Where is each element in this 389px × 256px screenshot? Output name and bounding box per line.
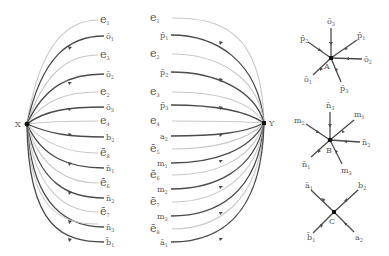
svg-text:n̄2: n̄2 [106,194,114,204]
vertex-x-label: X [15,120,21,129]
svg-text:e4: e4 [100,114,110,127]
svg-text:b̄1: b̄1 [105,237,114,248]
svg-text:n̄3: n̄3 [106,223,114,233]
svg-text:ā1: ā1 [305,181,313,191]
vertex-a-star: A ō3 p̄1 ō2 p̄3 ō1 p̄2 [300,17,372,94]
svg-text:e4: e4 [150,114,160,127]
svg-text:m3: m3 [341,166,352,176]
svg-text:m2: m2 [157,185,168,195]
svg-text:ē8: ē8 [150,222,160,235]
svg-text:ō2: ō2 [364,55,372,65]
svg-text:ē5: ē5 [150,142,160,155]
svg-text:m1: m1 [157,159,168,169]
svg-text:m2: m2 [294,116,305,126]
svg-text:p̄2: p̄2 [160,68,168,78]
vertex-y-label: Y [268,119,275,128]
svg-text:ō1: ō1 [304,75,312,85]
svg-text:a2: a2 [355,233,363,243]
svg-text:e3: e3 [100,48,110,61]
svg-text:m3: m3 [157,212,168,222]
svg-text:ō2: ō2 [106,70,114,80]
svg-text:b2: b2 [358,181,366,191]
svg-text:ō1: ō1 [106,32,114,42]
svg-text:e1: e1 [100,13,110,26]
svg-text:n̄2: n̄2 [362,138,370,148]
svg-text:C: C [329,217,335,226]
svg-text:p̄1: p̄1 [160,31,168,41]
left-edge-bundle [27,20,104,242]
vertex-c-star: C ā1 b2 a2 b̄1 [305,181,366,243]
svg-text:e3: e3 [150,85,160,98]
svg-text:p̄3: p̄3 [160,101,168,111]
svg-text:n̄1: n̄1 [302,160,310,170]
svg-text:A: A [323,62,330,71]
svg-text:n̄3: n̄3 [326,101,334,111]
svg-text:e2: e2 [150,47,160,60]
svg-text:p̄3: p̄3 [340,84,348,94]
svg-text:m1: m1 [354,110,365,120]
right-edge-labels: e1 p̄1 e2 p̄2 e3 p̄3 e4 a2 ē5 m1 ē6 m2 ē… [150,11,168,248]
svg-text:ē6: ē6 [150,168,160,181]
svg-text:ē8: ē8 [100,146,110,159]
right-edge-bundle [171,18,264,242]
left-edge-labels: e1 ō1 e3 ō2 e2 ō3 e4 b2 ē8 n̄1 ē6 n̄2 ē7… [100,13,114,248]
svg-text:e2: e2 [100,85,110,98]
svg-text:n̄1: n̄1 [106,164,114,174]
svg-text:ō3: ō3 [106,103,114,113]
svg-text:p̄1: p̄1 [357,31,365,41]
svg-text:ō3: ō3 [327,17,335,27]
svg-text:B: B [326,146,332,155]
svg-text:b2: b2 [106,133,114,143]
svg-text:p̄2: p̄2 [300,34,308,44]
graph-diagram: X e1 ō1 e3 ō2 e2 ō3 e4 b2 ē8 n̄1 ē6 n̄2 … [0,0,389,256]
svg-text:ē7: ē7 [150,195,160,208]
vertex-x [25,122,30,127]
svg-text:ē6: ē6 [100,176,110,189]
svg-text:ē7: ē7 [100,205,110,218]
svg-text:b̄1: b̄1 [306,232,315,243]
svg-text:a2: a2 [160,132,168,142]
svg-text:e1: e1 [150,11,160,24]
vertex-y [262,121,266,125]
vertex-b-star: B n̄3 m1 n̄2 m3 n̄1 m2 [294,101,370,176]
svg-text:ā1: ā1 [160,238,168,248]
